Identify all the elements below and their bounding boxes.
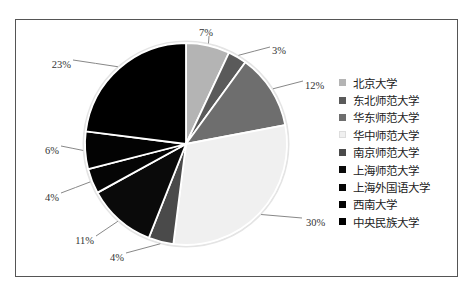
legend-item: 南京师范大学 <box>339 144 430 161</box>
pie-slice-4 <box>173 125 287 245</box>
data-label: 7% <box>199 27 213 38</box>
data-label: 11% <box>75 235 94 246</box>
leader-line <box>61 146 83 150</box>
legend-item: 华中师范大学 <box>339 126 430 143</box>
legend-swatch-icon <box>339 201 346 208</box>
legend-label: 上海外国语大学 <box>353 179 430 195</box>
legend-swatch-icon <box>339 131 346 138</box>
data-label: 6% <box>45 145 59 156</box>
leader-line <box>96 221 118 236</box>
legend-item: 东北师范大学 <box>339 91 430 108</box>
legend-swatch-icon <box>339 97 346 104</box>
legend-label: 上海师范大学 <box>353 162 419 178</box>
legend-item: 华东师范大学 <box>339 109 430 126</box>
data-label: 4% <box>45 192 59 203</box>
chart-legend: 北京大学东北师范大学华东师范大学华中师范大学南京师范大学上海师范大学上海外国语大… <box>339 74 430 231</box>
legend-label: 北京大学 <box>353 75 397 91</box>
legend-item: 中央民族大学 <box>339 213 430 230</box>
legend-swatch-icon <box>339 184 346 191</box>
legend-label: 南京师范大学 <box>353 144 419 160</box>
legend-swatch-icon <box>339 218 346 225</box>
legend-item: 西南大学 <box>339 196 430 213</box>
legend-swatch-icon <box>339 149 346 156</box>
legend-item: 上海外国语大学 <box>339 178 430 195</box>
leader-line <box>61 182 90 193</box>
leader-line <box>73 60 118 67</box>
legend-label: 华中师范大学 <box>353 127 419 143</box>
data-label: 12% <box>305 80 325 91</box>
data-label: 23% <box>52 59 72 70</box>
data-label: 3% <box>272 45 286 56</box>
data-label: 30% <box>306 217 326 228</box>
data-label: 4% <box>110 252 124 263</box>
leader-line <box>261 215 302 218</box>
legend-item: 北京大学 <box>339 74 430 91</box>
legend-label: 中央民族大学 <box>353 214 419 230</box>
legend-label: 西南大学 <box>353 196 397 212</box>
legend-swatch-icon <box>339 166 346 173</box>
legend-label: 东北师范大学 <box>353 92 419 108</box>
pie-slice-9 <box>86 43 186 144</box>
legend-swatch-icon <box>339 114 346 121</box>
legend-item: 上海师范大学 <box>339 161 430 178</box>
legend-swatch-icon <box>339 79 346 86</box>
legend-label: 华东师范大学 <box>353 109 419 125</box>
leader-line <box>238 47 270 55</box>
leader-line <box>126 244 160 253</box>
leader-line <box>273 81 303 89</box>
